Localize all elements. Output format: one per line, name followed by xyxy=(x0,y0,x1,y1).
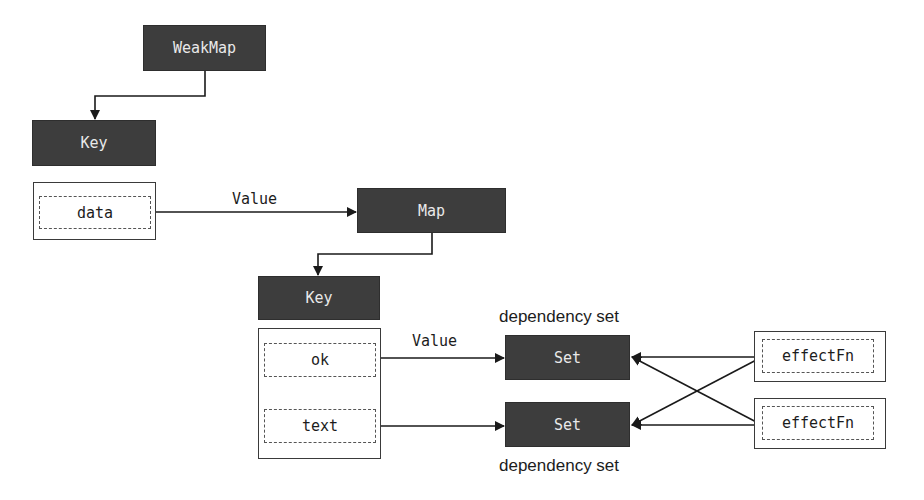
edge-map-to-key xyxy=(318,233,432,275)
text-label: text xyxy=(302,417,338,435)
effect-node-top: effectFn xyxy=(762,339,874,373)
ok-node: ok xyxy=(264,343,376,377)
set-node-bottom: Set xyxy=(505,402,630,447)
key-node-bottom: Key xyxy=(258,276,380,320)
data-node: data xyxy=(39,196,151,229)
edge-label-value-bottom: Value xyxy=(412,332,457,350)
key-label-bottom: Key xyxy=(305,289,332,307)
set-label-bottom: Set xyxy=(554,416,581,434)
weakmap-label: WeakMap xyxy=(173,39,236,57)
dependency-set-caption-bottom: dependency set xyxy=(499,456,619,476)
effect-label-top: effectFn xyxy=(782,347,854,365)
map-label: Map xyxy=(418,202,445,220)
weakmap-node: WeakMap xyxy=(143,25,266,71)
edge-weakmap-to-key xyxy=(95,71,205,119)
edge-label-value-top: Value xyxy=(232,190,277,208)
effect-label-bottom: effectFn xyxy=(782,414,854,432)
set-node-top: Set xyxy=(505,335,630,380)
effect-node-bottom: effectFn xyxy=(762,406,874,440)
dependency-set-caption-top: dependency set xyxy=(499,307,619,327)
data-label: data xyxy=(77,204,113,222)
edge-effect2-to-set1 xyxy=(632,357,762,425)
key-node-top: Key xyxy=(32,120,156,166)
edge-effect1-to-set2 xyxy=(632,357,762,425)
text-node: text xyxy=(264,409,376,443)
map-node: Map xyxy=(357,188,506,233)
key-label-top: Key xyxy=(80,134,107,152)
set-label-top: Set xyxy=(554,349,581,367)
ok-label: ok xyxy=(311,351,329,369)
diagram-canvas: WeakMap Key data Value Map Key ok text V… xyxy=(0,0,924,500)
